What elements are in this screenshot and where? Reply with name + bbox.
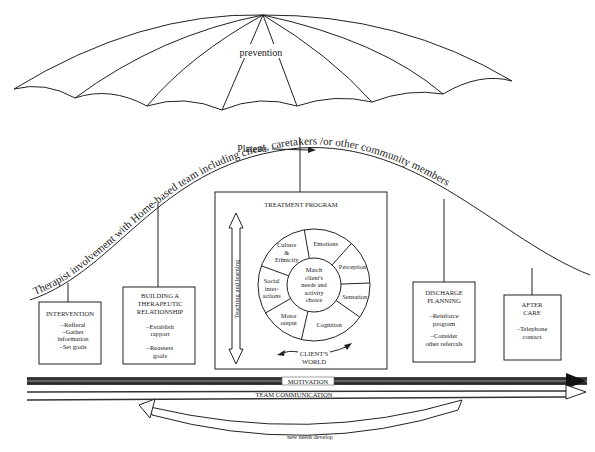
prevention-label: prevention (240, 47, 283, 58)
treatment-program: TREATMENT PROGRAM Teaching and learning … (215, 192, 387, 369)
stage-item: –Set goals (58, 343, 87, 350)
stage-item: contact (522, 333, 541, 340)
stage-title: THERAPEUTIC (137, 300, 183, 307)
new-needs-label: new needs develop (287, 434, 333, 440)
plateau-label: Plateau (237, 143, 266, 154)
wheel-segment-label: Sensation (342, 293, 368, 300)
stage-item: –Reassess (146, 344, 174, 351)
wheel-segment-label: Perception (339, 263, 367, 270)
treatment-program-title: TREATMENT PROGRAM (264, 201, 337, 208)
umbrella-scalloped-edge (14, 78, 512, 110)
stage-item: –Establish (145, 323, 174, 330)
stage-item: rapport (150, 330, 169, 337)
teaching-learning-label: Teaching and learning (233, 259, 240, 318)
stage-title: BUILDING A (141, 292, 179, 299)
wheel-center-text: Match (306, 266, 323, 273)
motivation-label: MOTIVATION (288, 378, 329, 385)
world-label-line: CLIENT'S (300, 350, 329, 357)
wheel-segment-label: & (284, 249, 289, 256)
wheel-center-text: client's (305, 274, 323, 281)
stage-after-care: AFTER CARE –Telephone contact (504, 295, 561, 360)
new-needs-loop-arrow: new needs develop (139, 399, 462, 440)
stage-item: –Refferal (60, 321, 86, 328)
stage-title: DISCHARGE (425, 289, 463, 296)
wheel-segment-label: Ethnicity (275, 256, 299, 263)
stage-title: PLANNING (427, 297, 461, 304)
team-communication-label: TEAM COMMUNICATION (255, 391, 332, 398)
wheel-segment-label: Emotions (313, 240, 338, 247)
motivation-bar: MOTIVATION (27, 373, 587, 389)
stage-discharge-planning: DISCHARGE PLANNING –Reinforce program –C… (413, 282, 475, 362)
stage-intervention: INTERVENTION –Refferal –Gather informati… (39, 302, 101, 364)
umbrella-prevention: prevention (14, 15, 512, 110)
stage-item: goals (153, 352, 167, 359)
world-label-line: WORLD (302, 358, 326, 365)
wheel-segment-label: Motor (281, 312, 298, 319)
therapy-process-diagram: prevention Therapist involvement with Ho… (0, 0, 595, 452)
stage-title: CARE (523, 309, 541, 316)
wheel-segment-label: Cognition (316, 321, 342, 328)
stage-item: –Telephone (516, 325, 548, 332)
stage-item: –Reinforce (428, 312, 458, 319)
stage-item: –Gather (61, 328, 84, 335)
loop-arrow-shaft (150, 400, 462, 435)
wheel-segment-label: inter- (265, 285, 279, 292)
stage-item: program (433, 320, 456, 327)
wheel-segment-label: output (281, 319, 298, 326)
wheel-segment-label: actions (263, 292, 282, 299)
team-communication-arrowhead-icon (566, 385, 586, 399)
wheel-center-text: activity (304, 289, 324, 296)
wheel-center-text: choice (306, 296, 323, 303)
wheel-segment-label: Culture (277, 241, 296, 248)
wheel-segment-label: Social (264, 277, 280, 284)
stage-item: information (57, 335, 89, 342)
stage-item: –Consider (429, 332, 458, 339)
stage-title: INTERVENTION (46, 310, 94, 317)
stage-building-relationship: BUILDING A THERAPEUTIC RELATIONSHIP –Est… (123, 287, 195, 364)
team-communication-bar: TEAM COMMUNICATION (27, 385, 586, 400)
stage-title: RELATIONSHIP (137, 308, 184, 315)
wheel-center-text: needs and (301, 281, 327, 288)
stage-title: AFTER (522, 301, 543, 308)
stage-item: other referrals (425, 340, 463, 347)
